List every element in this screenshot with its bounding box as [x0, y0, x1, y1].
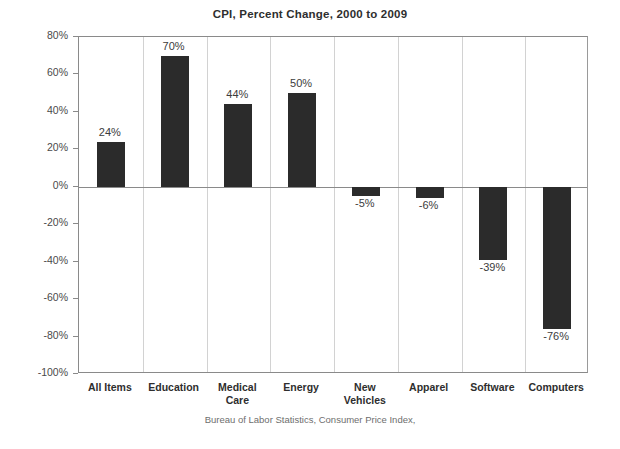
bar-value-label: -76%	[526, 330, 586, 342]
bar	[224, 104, 252, 186]
bar	[97, 142, 125, 187]
y-tick-label: -60%	[8, 291, 68, 303]
y-tick-label: -20%	[8, 216, 68, 228]
plot-area	[78, 36, 588, 373]
y-tick-label: 40%	[8, 104, 68, 116]
y-tick-mark	[73, 373, 78, 374]
bar	[288, 93, 316, 187]
y-tick-label: 80%	[8, 29, 68, 41]
y-tick-label: -80%	[8, 329, 68, 341]
gridline-vertical	[207, 37, 208, 372]
source-note: Bureau of Labor Statistics, Consumer Pri…	[0, 414, 620, 425]
y-tick-label: -40%	[8, 254, 68, 266]
bar-value-label: -39%	[462, 261, 522, 273]
y-tick-label: 20%	[8, 141, 68, 153]
chart-title: CPI, Percent Change, 2000 to 2009	[0, 8, 620, 20]
bar	[416, 187, 444, 198]
bar-chart-figure: CPI, Percent Change, 2000 to 2009 80%60%…	[0, 0, 620, 449]
bar-value-label: 50%	[271, 77, 331, 89]
bar-value-label: -6%	[399, 199, 459, 211]
bar	[161, 56, 189, 187]
bar-value-label: -5%	[335, 197, 395, 209]
y-tick-label: -100%	[8, 366, 68, 378]
bar	[352, 187, 380, 196]
zero-baseline	[79, 187, 587, 188]
bar	[479, 187, 507, 260]
bar-value-label: 24%	[80, 126, 140, 138]
bar-value-label: 44%	[207, 88, 267, 100]
gridline-vertical	[143, 37, 144, 372]
bar-value-label: 70%	[144, 40, 204, 52]
gridline-vertical	[462, 37, 463, 372]
y-tick-label: 0%	[8, 179, 68, 191]
bar	[543, 187, 571, 329]
y-tick-label: 60%	[8, 66, 68, 78]
x-tick-label: Computers	[516, 381, 596, 394]
gridline-vertical	[525, 37, 526, 372]
